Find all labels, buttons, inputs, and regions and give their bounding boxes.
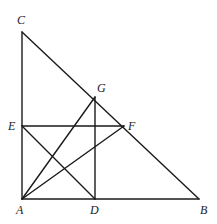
segment-ag: [22, 97, 95, 199]
segment-ed: [22, 126, 95, 199]
label-g: G: [97, 81, 106, 95]
label-e: E: [7, 119, 16, 133]
label-d: D: [89, 203, 99, 217]
label-b: B: [200, 203, 208, 217]
segment-cb: [22, 32, 199, 199]
label-f: F: [127, 119, 136, 133]
label-c: C: [17, 13, 26, 27]
segment-af: [22, 126, 124, 199]
geometry-diagram: A B C D E F G: [0, 0, 217, 224]
segments: [22, 32, 199, 199]
label-a: A: [15, 203, 24, 217]
point-labels: A B C D E F G: [7, 13, 208, 217]
